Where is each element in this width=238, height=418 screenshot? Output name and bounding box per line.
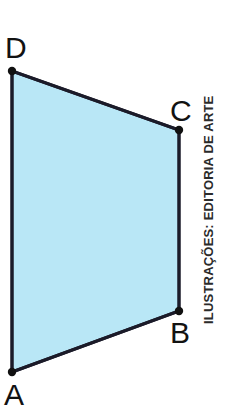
vertex-label-a: A — [4, 380, 24, 410]
illustration-figure: D C B A ILUSTRAÇÕES: EDITORIA DE ARTE — [0, 0, 238, 418]
illustration-credit: ILUSTRAÇÕES: EDITORIA DE ARTE — [202, 84, 215, 324]
vertex-label-b: B — [170, 318, 190, 348]
vertex-dot-c — [175, 126, 183, 134]
quadrilateral-shape — [12, 71, 179, 372]
vertex-dot-b — [175, 307, 183, 315]
vertex-label-c: C — [170, 96, 192, 126]
vertex-label-d: D — [5, 33, 27, 63]
vertex-dot-d — [8, 67, 16, 75]
vertex-dot-a — [8, 368, 16, 376]
